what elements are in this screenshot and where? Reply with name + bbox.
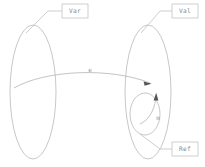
edge-m-line[interactable] xyxy=(140,95,156,124)
leader-line-var xyxy=(26,11,62,33)
diagram-svg: e m Var Val Ref xyxy=(0,0,205,167)
edge-e-line[interactable] xyxy=(14,73,150,88)
ellipse-val[interactable] xyxy=(125,25,171,159)
edge-e-label: e xyxy=(88,66,92,73)
edge-m-arrowhead xyxy=(154,93,159,101)
diagram-canvas: e m Var Val Ref xyxy=(0,0,205,167)
edge-m-label: m xyxy=(156,114,160,121)
label-box-val[interactable]: Val xyxy=(172,4,198,18)
ellipse-var[interactable] xyxy=(10,25,56,159)
label-box-ref[interactable]: Ref xyxy=(172,142,198,156)
label-box-var-text: Var xyxy=(69,7,81,14)
leader-line-ref xyxy=(140,134,172,149)
label-box-ref-text: Ref xyxy=(179,145,191,152)
label-box-val-text: Val xyxy=(179,7,191,14)
label-box-var[interactable]: Var xyxy=(62,4,88,18)
